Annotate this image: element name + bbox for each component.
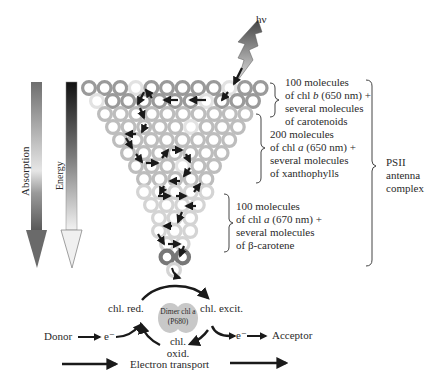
pigment-circle [177, 108, 190, 121]
pigment-circle [192, 160, 205, 173]
pigment-circle [207, 82, 220, 95]
pigment-circle [114, 108, 127, 121]
pigment-circle [122, 121, 135, 134]
pigment-circle [83, 82, 96, 95]
pigment-circle [161, 160, 174, 173]
group-label-chl-a-670: 100 molecules of chl a (670 nm) + severa… [236, 200, 322, 251]
pigment-circle [200, 121, 213, 134]
pigment-circle [106, 95, 119, 108]
pigment-circle [247, 95, 260, 108]
pigment-circle [223, 108, 236, 121]
pigment-circle [184, 225, 197, 238]
pigment-circle [216, 121, 229, 134]
reaction-center: Dimer chl a (P680) [141, 268, 208, 345]
pigment-circle [223, 134, 236, 147]
acceptor-label: Acceptor [272, 329, 313, 341]
pigment-circle [129, 82, 142, 95]
pigment-circle [215, 95, 228, 108]
pigment-circle [208, 160, 221, 173]
pigment-circle [161, 82, 174, 95]
pigment-circle [160, 199, 173, 212]
pigment-circle [239, 108, 252, 121]
pigment-circle [91, 95, 104, 108]
svg-text:of carotenoids: of carotenoids [285, 115, 348, 127]
pigment-circle [138, 173, 151, 186]
chl-red-label: chl. red. [108, 302, 144, 314]
pigment-circle [145, 108, 158, 121]
pigment-circle [114, 82, 127, 95]
svg-text:100 molecules: 100 molecules [285, 76, 349, 88]
chl-excit-label: chl. excit. [200, 302, 243, 314]
absorption-label: Absorption [19, 146, 31, 196]
pigment-circle [184, 147, 197, 160]
svg-text:complex: complex [386, 182, 424, 194]
pigment-circle [192, 82, 205, 95]
pigment-circle [145, 160, 158, 173]
pigment-circle [208, 108, 221, 121]
svg-text:of chl b (650 nm) +: of chl b (650 nm) + [285, 89, 371, 102]
dimer-label: Dimer chl a [160, 307, 196, 316]
donor-label: Donor [44, 330, 72, 342]
pigment-circle [114, 134, 127, 147]
pigment-circle [169, 173, 182, 186]
pigment-circle [176, 251, 189, 264]
svg-text:200 molecules: 200 molecules [270, 128, 334, 140]
pigment-circle [145, 199, 158, 212]
pigment-circle [153, 95, 166, 108]
pigment-circle [122, 147, 135, 160]
svg-text:several molecules: several molecules [285, 102, 364, 114]
photon-label: hν [256, 13, 267, 25]
pigment-circle [192, 108, 205, 121]
svg-text:of chl a (650 nm) +: of chl a (650 nm) + [270, 141, 356, 154]
group-label-chl-a-650: 200 molecules of chl a (650 nm) + severa… [270, 128, 356, 179]
pigment-circle [200, 147, 213, 160]
pigment-circle [169, 121, 182, 134]
pigment-circle [185, 121, 198, 134]
pigment-circle [122, 95, 135, 108]
chl-oxid-label: chl. [170, 335, 186, 347]
energy-label: Energy [54, 161, 65, 190]
svg-text:of β-carotene: of β-carotene [236, 239, 295, 251]
pigment-circle [231, 95, 244, 108]
psii-complex-label: PSII antenna complex [386, 156, 424, 194]
pigment-circle [153, 121, 166, 134]
pigment-circle [207, 134, 220, 147]
legend-label: Electron transport [130, 358, 209, 370]
svg-text:several molecules: several molecules [270, 154, 349, 166]
pigment-circle [160, 134, 173, 147]
electron-in-label: e⁻ [104, 330, 115, 342]
svg-text:several molecules: several molecules [236, 226, 315, 238]
pigment-circle [161, 108, 174, 121]
pigment-circle [153, 173, 166, 186]
svg-text:PSII: PSII [386, 156, 406, 168]
pigment-circle [176, 82, 189, 95]
svg-text:antenna: antenna [386, 169, 420, 181]
pigment-circle [192, 134, 205, 147]
pigment-circle [145, 134, 158, 147]
electron-out-label: e⁻ [236, 329, 247, 341]
pigment-circle [98, 82, 111, 95]
pigment-circle [239, 82, 252, 95]
pigment-circle [153, 212, 166, 225]
pigment-circle [200, 173, 213, 186]
svg-text:of chl a (670 nm) +: of chl a (670 nm) + [236, 213, 322, 226]
pigment-circle [231, 121, 244, 134]
pigment-circle [168, 147, 181, 160]
pigment-circle [215, 147, 228, 160]
pigment-circle [200, 186, 213, 199]
svg-text:100 molecules: 100 molecules [236, 200, 300, 212]
psii-antenna-diagram: Absorption Energy hν 100 molecules of ch… [0, 0, 440, 388]
pigment-circle [254, 82, 267, 95]
pigment-circle [138, 186, 151, 199]
pigment-circle [184, 212, 197, 225]
pigment-circle [161, 251, 174, 264]
group-label-chl-b: 100 molecules of chl b (650 nm) + severa… [285, 76, 371, 127]
electron-in-arrow [116, 325, 140, 337]
pigment-circle [99, 108, 112, 121]
pigment-circle [176, 134, 189, 147]
pigment-circle [107, 121, 120, 134]
svg-text:(P680): (P680) [168, 317, 189, 326]
svg-text:of xanthophylls: of xanthophylls [270, 167, 339, 179]
